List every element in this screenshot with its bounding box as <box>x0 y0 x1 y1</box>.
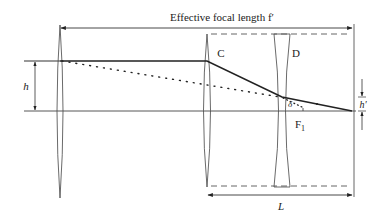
lens-a-equivalent <box>57 25 63 198</box>
lens-d <box>274 34 290 187</box>
h-label: h <box>23 80 29 92</box>
delta-label: δ <box>288 99 293 109</box>
f1-label-sub: 1 <box>301 124 305 133</box>
lens-d-label: D <box>292 47 300 59</box>
focal-length-label: Effective focal length f′ <box>170 11 274 23</box>
ray-marker-dot <box>316 103 318 105</box>
length-label: L <box>277 200 284 212</box>
telephoto-diagram: Effective focal length f′ h h′ C D δ F1 … <box>0 0 385 219</box>
lens-c <box>204 34 211 187</box>
h-prime-label: h′ <box>359 99 367 110</box>
lens-c-label: C <box>217 47 224 59</box>
equivalent-ray-dotted <box>62 61 280 97</box>
f1-label: F1 <box>295 118 305 133</box>
